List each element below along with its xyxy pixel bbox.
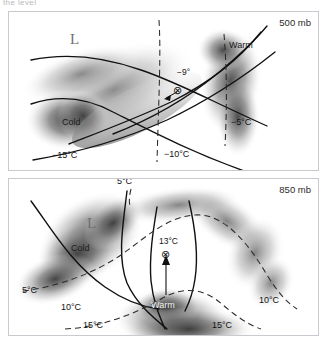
parcel-temperature-label-850: 13°C — [159, 237, 178, 246]
isotherm-label-15c-bottomright-850: 15°C — [212, 321, 232, 330]
low-pressure-symbol-850: L — [87, 216, 95, 231]
cold-air-label-850: Cold — [71, 244, 90, 253]
isotherm-label-minus15-500: −15°C — [52, 151, 77, 160]
isotherm-label-10c-right-850: 10°C — [259, 296, 279, 305]
parcel-marker-500: ⊗ — [173, 85, 182, 96]
isotherms-500 — [157, 20, 226, 162]
isotherm-label-10c-lowerleft-850: 10°C — [61, 303, 81, 312]
panel-850mb: 850 mb L Cold Warm 5°C 5°C 10°C 15°C 15°… — [8, 178, 319, 336]
parcel-marker-850: ⊗ — [161, 249, 170, 260]
isotherm-label-5c-top-850: 5°C — [117, 178, 132, 186]
parcel-temperature-label-500: −9° — [177, 68, 190, 77]
isotherm-label-5c-left-850: 5°C — [22, 286, 37, 295]
low-pressure-symbol-500: L — [70, 32, 78, 47]
pressure-level-label-850: 850 mb — [279, 185, 311, 195]
isotherm-label-minus5-500: −5°C — [231, 118, 251, 127]
parcel-arrow-850 — [162, 255, 170, 295]
shaded-air-masses-850 — [9, 179, 304, 336]
figure-canvas: the level — [0, 0, 327, 343]
cold-air-label-500: Cold — [62, 118, 81, 127]
cropped-header-text: the level — [3, 0, 93, 7]
isotherm-label-minus10-500: −10°C — [164, 150, 189, 159]
warm-air-label-850: Warm — [151, 301, 175, 310]
isotherm-label-15c-bottomleft-850: 15°C — [83, 321, 103, 330]
warm-air-label-500: Warm — [229, 41, 253, 50]
panel-500mb-graphic — [9, 12, 319, 171]
pressure-level-label-500: 500 mb — [279, 18, 311, 28]
panel-500mb: 500 mb L Cold Warm −15°C −10°C −5°C −9° … — [8, 11, 319, 171]
